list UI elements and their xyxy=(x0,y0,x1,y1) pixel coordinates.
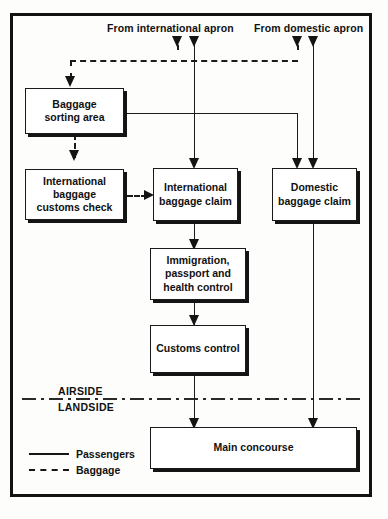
arrowhead-dom-apron-baggage xyxy=(292,36,302,47)
legend-item-passengers: Passengers xyxy=(29,448,135,460)
connector-dom-apron-passengers xyxy=(313,36,314,166)
node-domestic-baggage-claim-label: Domestic baggage claim xyxy=(275,181,354,207)
node-main-concourse-label: Main concourse xyxy=(211,441,297,454)
node-baggage-sorting-area-label: Baggage sorting area xyxy=(41,98,107,124)
legend-dashed-line-icon xyxy=(29,469,69,471)
node-customs-control[interactable]: Customs control xyxy=(150,325,246,373)
source-label-domestic-apron: From domestic apron xyxy=(254,22,363,34)
airside-landside-divider xyxy=(22,398,360,400)
zone-label-landside: LANDSIDE xyxy=(55,401,117,413)
zone-label-airside: AIRSIDE xyxy=(55,385,106,397)
flowchart-canvas: From international apron From domestic a… xyxy=(0,0,388,519)
node-immigration-passport-health-control-label: Immigration, passport and health control xyxy=(160,254,235,293)
arrowhead-baggage-sorting-in xyxy=(65,76,75,87)
legend-label-baggage: Baggage xyxy=(76,464,120,476)
source-label-international-apron: From international apron xyxy=(107,22,234,34)
node-international-baggage-claim[interactable]: International baggage claim xyxy=(153,168,238,221)
legend-item-baggage: Baggage xyxy=(29,464,120,476)
connector-domestic-claim-to-concourse xyxy=(313,221,314,428)
node-main-concourse[interactable]: Main concourse xyxy=(150,427,357,469)
node-domestic-baggage-claim[interactable]: Domestic baggage claim xyxy=(272,168,357,221)
node-international-baggage-claim-label: International baggage claim xyxy=(156,181,235,207)
arrowhead-dom-apron-passengers-top xyxy=(308,36,318,47)
arrowhead-intl-apron-baggage xyxy=(172,36,182,47)
node-baggage-sorting-area[interactable]: Baggage sorting area xyxy=(25,88,124,134)
connector-baggage-bus xyxy=(70,60,298,62)
node-international-baggage-customs-check[interactable]: International baggage customs check xyxy=(25,169,124,220)
legend-label-passengers: Passengers xyxy=(76,448,135,460)
node-immigration-passport-health-control[interactable]: Immigration, passport and health control xyxy=(150,248,246,300)
arrowhead-customs-check-in xyxy=(69,150,79,161)
connector-intl-apron-passengers xyxy=(194,36,195,166)
node-customs-control-label: Customs control xyxy=(153,342,242,355)
legend-solid-line-icon xyxy=(29,453,69,455)
node-international-baggage-customs-check-label: International baggage customs check xyxy=(34,175,116,214)
connector-sorting-to-domestic-claim-h xyxy=(124,113,298,114)
arrowhead-intl-apron-passengers-top xyxy=(189,36,199,47)
